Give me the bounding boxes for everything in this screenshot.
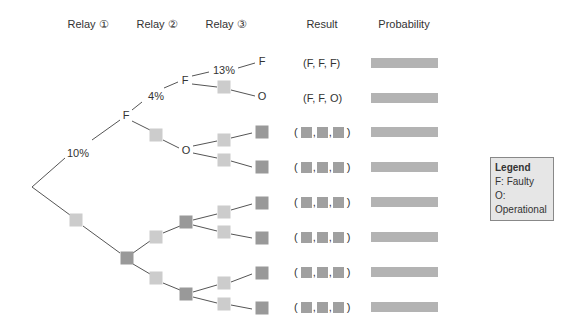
blank-node-relay2-dark bbox=[180, 216, 193, 229]
legend-title: Legend bbox=[495, 161, 549, 175]
blank-node-relay3 bbox=[218, 206, 231, 219]
leaf-blank bbox=[256, 267, 269, 280]
legend-item-operational: O: Operational bbox=[495, 189, 549, 217]
probability-bar bbox=[371, 267, 438, 277]
node-relay3-operational: O bbox=[258, 90, 267, 102]
leaf-blank bbox=[256, 232, 269, 245]
blank-node-relay2-dark bbox=[121, 252, 134, 265]
legend-item-faulty: F: Faulty bbox=[495, 175, 549, 189]
node-relay2-operational: O bbox=[182, 144, 191, 156]
probability-bar bbox=[371, 127, 438, 137]
leaf-blank bbox=[256, 161, 269, 174]
blank-node-relay3 bbox=[218, 134, 231, 147]
edge-label-relay1: 10% bbox=[67, 147, 89, 159]
blank-node-relay3 bbox=[218, 154, 231, 167]
edge-label-relay3: 13% bbox=[213, 64, 235, 76]
result-blank: (,,) bbox=[292, 196, 352, 208]
legend-box: Legend F: Faulty O: Operational bbox=[490, 157, 554, 221]
result-blank: (,,) bbox=[292, 231, 352, 243]
blank-node-relay2 bbox=[150, 129, 163, 142]
blank-node-relay3 bbox=[218, 298, 231, 311]
probability-bar bbox=[371, 162, 438, 172]
result-blank: (,,) bbox=[292, 301, 352, 313]
blank-node-relay1 bbox=[70, 214, 83, 227]
probability-bar bbox=[371, 58, 438, 68]
blank-node-relay2 bbox=[150, 272, 163, 285]
leaf-blank bbox=[256, 126, 269, 139]
probability-bar bbox=[371, 232, 438, 242]
result-ffo: (F, F, O) bbox=[303, 92, 342, 104]
node-relay3-faulty: F bbox=[259, 55, 266, 67]
blank-node-relay3 bbox=[218, 81, 231, 94]
edge-label-relay2: 4% bbox=[148, 90, 164, 102]
blank-node-relay3 bbox=[218, 226, 231, 239]
result-fff: (F, F, F) bbox=[303, 57, 340, 69]
probability-bar bbox=[371, 197, 438, 207]
probability-bar bbox=[371, 93, 438, 103]
probability-bar bbox=[371, 302, 438, 312]
result-blank: (,,) bbox=[292, 126, 352, 138]
leaf-blank bbox=[256, 197, 269, 210]
node-relay1-faulty: F bbox=[123, 109, 130, 121]
result-blank: (,,) bbox=[292, 266, 352, 278]
blank-node-relay3 bbox=[218, 277, 231, 290]
node-relay2-faulty: F bbox=[182, 74, 189, 86]
blank-node-relay2 bbox=[150, 231, 163, 244]
leaf-blank bbox=[256, 302, 269, 315]
result-blank: (,,) bbox=[292, 161, 352, 173]
blank-node-relay2-dark bbox=[180, 288, 193, 301]
